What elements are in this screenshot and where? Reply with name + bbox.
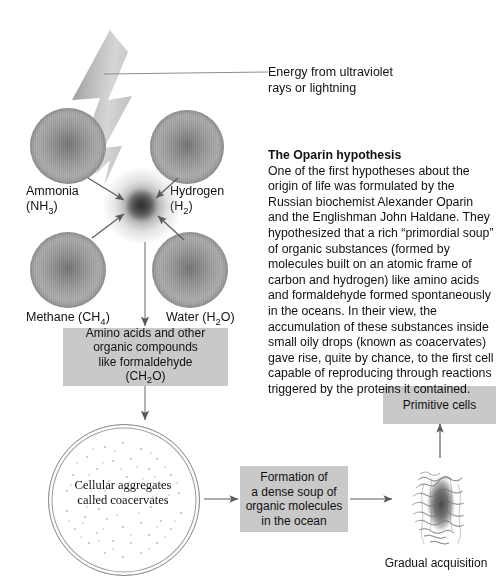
oparin-hypothesis-title: The Oparin hypothesis [268, 148, 494, 164]
box-amino-line-3: like formaldehyde [86, 355, 205, 370]
box-amino-line-1: Amino acids and other [86, 326, 205, 341]
box-soup-line-4: in the ocean [246, 514, 343, 529]
oparin-hypothesis-text: The Oparin hypothesis One of the first h… [268, 148, 494, 398]
box-amino-line-2: organic compounds [86, 340, 205, 355]
box-primitive-cells-label: Primitive cells [403, 398, 476, 413]
arrow-hydrogen-to-burst [156, 178, 178, 198]
primitive-cell-blob [404, 458, 478, 552]
diagram-canvas: Energy from ultraviolet rays or lightnin… [0, 0, 496, 576]
coacervate-label-line-1: Cellular aggregates [48, 478, 198, 493]
box-soup-line-2: a dense soup of [246, 485, 343, 500]
box-soup-line-3: organic molecules [246, 499, 343, 514]
coacervate-label-line-2: called coacervates [48, 493, 198, 508]
box-amino-acids: Amino acids and other organic compounds … [63, 328, 228, 386]
oparin-hypothesis-paragraph: One of the first hypotheses about the or… [268, 164, 494, 396]
box-organic-soup: Formation of a dense soup of organic mol… [240, 466, 348, 532]
caption-gradual-acquisition: Gradual acquisition [376, 556, 496, 570]
arrow-methane-to-burst [92, 214, 124, 238]
coacervate-label: Cellular aggregates called coacervates [48, 478, 198, 508]
arrow-water-to-burst [158, 216, 184, 240]
box-soup-line-1: Formation of [246, 470, 343, 485]
arrow-ammonia-to-burst [88, 178, 124, 200]
box-amino-formula: (CH2O) [86, 369, 205, 388]
